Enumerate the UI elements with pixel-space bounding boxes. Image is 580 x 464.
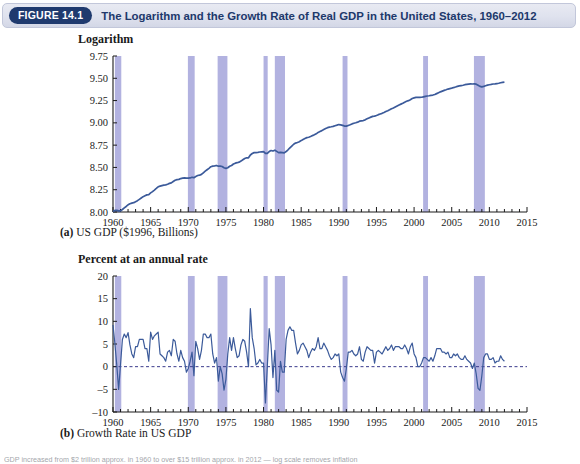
panel-b-plot: 20151050–5–10196019651970197519801985199… (0, 252, 580, 452)
panel-a-log-gdp: Logarithm 9.759.509.259.008.758.508.258.… (0, 30, 580, 252)
recession-band (115, 56, 121, 212)
recession-band (275, 56, 285, 212)
svg-text:2000: 2000 (404, 417, 425, 428)
panel-b-growth-rate: Percent at an annual rate 20151050–5–101… (0, 252, 580, 452)
svg-text:8.50: 8.50 (90, 162, 108, 173)
svg-text:2010: 2010 (479, 417, 500, 428)
data-series-line (113, 82, 504, 211)
figure-header: FIGURE 14.1 The Logarithm and the Growth… (2, 3, 576, 28)
svg-text:2005: 2005 (441, 417, 462, 428)
svg-text:1990: 1990 (328, 217, 349, 228)
svg-text:1980: 1980 (253, 217, 274, 228)
panel-b-caption: (b) Growth Rate in US GDP (60, 427, 191, 439)
panel-a-plot: 9.759.509.259.008.758.508.258.0019601965… (0, 30, 580, 252)
svg-text:0: 0 (103, 361, 108, 372)
svg-text:2000: 2000 (404, 217, 425, 228)
svg-text:1985: 1985 (291, 417, 312, 428)
svg-text:20: 20 (98, 271, 109, 282)
recession-band (423, 56, 428, 212)
svg-text:1995: 1995 (366, 217, 387, 228)
svg-text:1995: 1995 (366, 417, 387, 428)
panel-b-caption-text: Growth Rate in US GDP (77, 427, 191, 439)
data-series-line (113, 309, 504, 403)
panel-b-caption-prefix: (b) (60, 427, 74, 439)
recession-band (188, 276, 195, 412)
svg-text:1975: 1975 (215, 417, 236, 428)
svg-text:9.00: 9.00 (90, 117, 108, 128)
svg-text:9.50: 9.50 (90, 73, 108, 84)
svg-text:8.00: 8.00 (90, 207, 108, 218)
panel-a-caption-prefix: (a) (60, 226, 73, 238)
svg-text:–5: –5 (97, 384, 109, 395)
recession-band (423, 276, 428, 412)
svg-text:9.25: 9.25 (90, 95, 108, 106)
recession-band (264, 56, 268, 212)
svg-text:2005: 2005 (441, 217, 462, 228)
svg-text:15: 15 (98, 293, 109, 304)
svg-text:2015: 2015 (517, 417, 538, 428)
svg-text:1975: 1975 (215, 217, 236, 228)
svg-text:10: 10 (98, 316, 109, 327)
svg-text:1990: 1990 (328, 417, 349, 428)
recession-band (188, 56, 195, 212)
recession-band (218, 276, 228, 412)
recession-band (275, 276, 285, 412)
recession-band (343, 56, 348, 212)
svg-text:–10: –10 (91, 407, 108, 418)
svg-text:1980: 1980 (253, 417, 274, 428)
svg-text:2010: 2010 (479, 217, 500, 228)
svg-text:5: 5 (103, 339, 108, 350)
recession-band (474, 276, 485, 412)
recession-band (343, 276, 348, 412)
figure-title: The Logarithm and the Growth Rate of Rea… (101, 10, 536, 22)
svg-text:8.75: 8.75 (90, 140, 108, 151)
svg-text:8.25: 8.25 (90, 184, 108, 195)
svg-text:2015: 2015 (517, 217, 538, 228)
panel-a-caption: (a) US GDP ($1996, Billions) (60, 226, 198, 238)
recession-band (218, 56, 228, 212)
recession-band (474, 56, 485, 212)
panel-a-caption-text: US GDP ($1996, Billions) (76, 226, 198, 238)
figure-footnote: GDP increased from $2 trillion approx. i… (4, 455, 576, 464)
figure-number-badge: FIGURE 14.1 (9, 7, 92, 24)
svg-text:9.75: 9.75 (90, 51, 108, 62)
svg-text:1985: 1985 (291, 217, 312, 228)
